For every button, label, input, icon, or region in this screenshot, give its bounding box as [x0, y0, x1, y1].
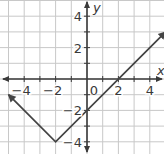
- y-tick-label: 4: [74, 9, 82, 24]
- y-tick-label: −4: [63, 135, 82, 150]
- axes: [3, 2, 162, 152]
- x-tick-label: −4: [12, 83, 31, 98]
- x-tick-label: 4: [146, 83, 154, 98]
- x-tick-label: 0: [90, 83, 98, 98]
- y-tick-label: −2: [63, 103, 82, 118]
- x-tick-label: −2: [43, 83, 62, 98]
- y-tick-label: 2: [74, 41, 82, 56]
- x-axis-label: x: [156, 63, 164, 78]
- x-tick-label: 2: [114, 83, 122, 98]
- tick-labels: −4−2024−4−224xy: [12, 0, 164, 150]
- coordinate-plane: −4−2024−4−224xy: [0, 0, 164, 154]
- y-axis-label: y: [92, 0, 101, 15]
